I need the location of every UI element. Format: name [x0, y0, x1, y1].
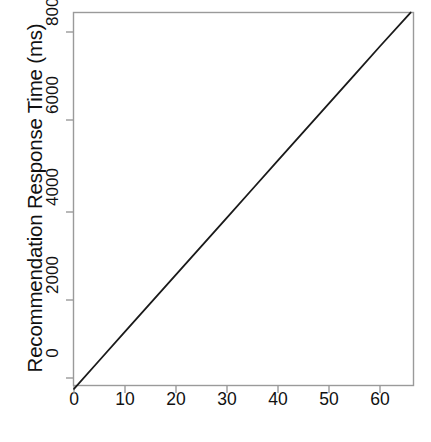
y-axis-ticks: [66, 32, 74, 378]
data-series-line: [74, 13, 411, 389]
x-axis-ticks: [74, 386, 380, 394]
chart-figure: Recommendation Response Time (ms) 8000 6…: [0, 0, 431, 442]
plot-area: [0, 0, 431, 442]
